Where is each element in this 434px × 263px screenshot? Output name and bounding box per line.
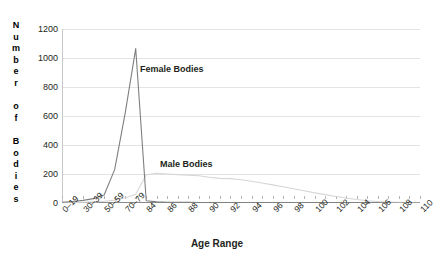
x-tick-label: 86 (165, 200, 179, 214)
y-axis-title-letter: o (13, 101, 19, 113)
y-axis-title-letter: s (13, 194, 18, 206)
y-tick-label: 1200 (24, 24, 58, 34)
y-axis-title-letter: i (15, 171, 18, 183)
y-tick-label: 400 (24, 140, 58, 150)
y-axis-title-letter: b (13, 55, 19, 67)
x-tick-label: 88 (186, 200, 200, 214)
y-axis-title-letter: u (13, 32, 19, 44)
y-tick-label: 200 (24, 169, 58, 179)
x-tick-label: 110 (418, 197, 434, 214)
y-axis-title-letter: d (13, 159, 19, 171)
y-axis-title-letter: f (15, 113, 18, 125)
chart-container: Number of Bodies 020040060080010001200 F… (0, 0, 434, 263)
y-tick-label: 600 (24, 111, 58, 121)
series-lines (62, 29, 420, 203)
y-axis-title-letter: m (12, 43, 20, 55)
x-tick-label: 90 (207, 200, 221, 214)
y-axis-title-letter (15, 124, 18, 136)
y-axis-title-letter: e (13, 182, 18, 194)
y-axis-title-letter: r (14, 78, 18, 90)
y-axis-title-letter: B (13, 136, 20, 148)
y-axis-title-letter: e (13, 66, 18, 78)
y-tick-label: 1000 (24, 53, 58, 63)
plot-area (62, 29, 420, 203)
x-tick-label: 94 (250, 200, 264, 214)
y-axis-title: Number of Bodies (9, 20, 23, 216)
y-axis-tick-labels: 020040060080010001200 (24, 0, 58, 263)
female-bodies-annotation: Female Bodies (140, 64, 204, 74)
x-tickmark (420, 196, 421, 199)
y-axis-title-letter: N (13, 20, 20, 32)
x-axis-title: Age Range (0, 238, 434, 249)
x-axis-tick-labels: 0–1930–3950–5970–79848688909294969810010… (62, 203, 420, 243)
x-tick-label: 92 (228, 200, 242, 214)
x-tick-label: 98 (292, 200, 306, 214)
y-tick-label: 0 (24, 198, 58, 208)
y-axis-title-letter (15, 90, 18, 102)
male-bodies-annotation: Male Bodies (160, 159, 213, 169)
x-tick-label: 96 (271, 200, 285, 214)
y-axis-title-letter: o (13, 148, 19, 160)
x-tick-label: 84 (144, 200, 158, 214)
y-tick-label: 800 (24, 82, 58, 92)
